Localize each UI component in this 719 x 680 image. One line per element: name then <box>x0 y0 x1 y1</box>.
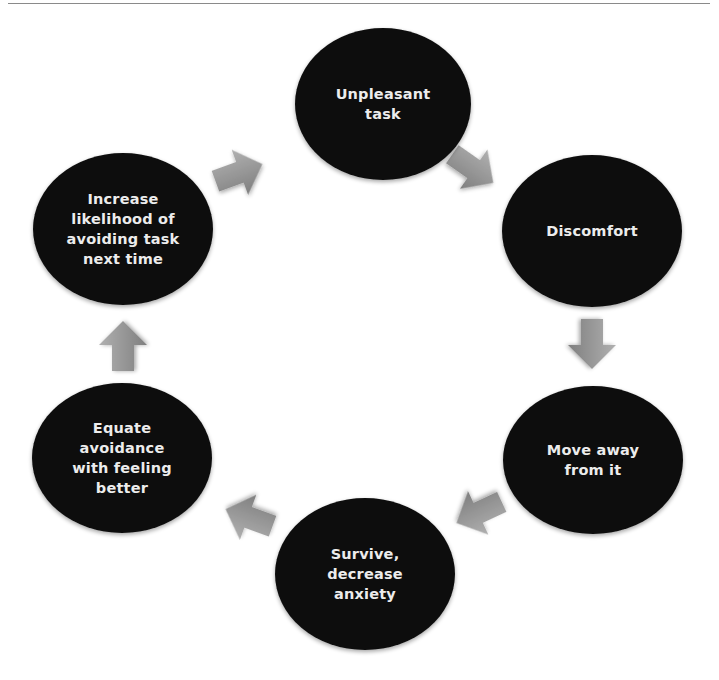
node-label-line: Discomfort <box>546 223 638 239</box>
node-survive: Survive,decreaseanxiety <box>275 498 455 650</box>
node-label-line: likelihood of <box>71 211 175 227</box>
node-label-line: anxiety <box>334 586 396 602</box>
node-circle <box>32 383 212 533</box>
arrow-icon <box>217 487 280 549</box>
node-label-line: avoidance <box>80 440 165 456</box>
arrow-move-away-to-survive <box>446 480 512 545</box>
arrow-icon <box>446 480 512 545</box>
node-equate-avoidance: Equateavoidancewith feelingbetter <box>32 383 212 533</box>
arrow-discomfort-to-move-away <box>568 319 616 369</box>
node-label-line: Survive, <box>331 546 400 562</box>
node-label-line: decrease <box>327 566 403 582</box>
node-label-line: avoiding task <box>67 231 180 247</box>
node-label-line: Equate <box>93 420 151 436</box>
node-label-line: Unpleasant <box>336 86 431 102</box>
node-label-line: next time <box>83 251 163 267</box>
arrow-equate-avoidance-to-increase-likelihood <box>99 321 147 371</box>
node-label-line: Move away <box>547 442 640 458</box>
node-circle <box>33 153 213 305</box>
node-circle <box>295 28 471 180</box>
arrow-icon <box>568 319 616 369</box>
node-label-line: with feeling <box>72 460 172 476</box>
node-unpleasant-task: Unpleasanttask <box>295 28 471 180</box>
arrow-survive-to-equate-avoidance <box>217 487 280 549</box>
node-discomfort: Discomfort <box>502 155 682 307</box>
node-label-line: Increase <box>87 191 158 207</box>
arrow-icon <box>207 142 270 204</box>
node-label-line: task <box>365 106 401 122</box>
arrow-icon <box>99 321 147 371</box>
node-label-line: better <box>96 480 149 496</box>
node-circle <box>503 386 683 534</box>
arrow-increase-likelihood-to-unpleasant-task <box>207 142 270 204</box>
avoidance-cycle-diagram: UnpleasanttaskDiscomfortMove awayfrom it… <box>0 0 719 680</box>
node-increase-likelihood: Increaselikelihood ofavoiding tasknext t… <box>33 153 213 305</box>
node-label-line: from it <box>565 462 622 478</box>
node-move-away: Move awayfrom it <box>503 386 683 534</box>
